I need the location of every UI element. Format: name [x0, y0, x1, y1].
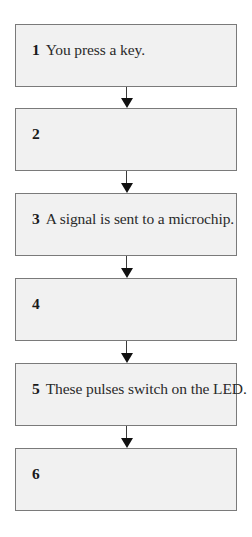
step-number: 2 — [32, 125, 40, 142]
step-box-6: 6 — [15, 448, 237, 511]
step-content: 4 — [32, 294, 46, 314]
step-content: 3A signal is sent to a microchip. — [32, 209, 234, 229]
step-box-1: 1You press a key. — [15, 24, 237, 87]
arrow-down-icon — [121, 183, 133, 193]
step-number: 4 — [32, 295, 40, 312]
step-text: A signal is sent to a microchip. — [46, 210, 234, 227]
step-content: 1You press a key. — [32, 40, 145, 60]
arrow-down-icon — [121, 98, 133, 108]
arrow-down-icon — [121, 353, 133, 363]
step-box-3: 3A signal is sent to a microchip. — [15, 193, 237, 256]
step-text: You press a key. — [46, 41, 145, 58]
step-box-5: 5These pulses switch on the LED. — [15, 363, 237, 426]
step-box-2: 2 — [15, 108, 237, 171]
flowchart: 1You press a key. 2 3A signal is sent to… — [0, 0, 252, 537]
step-content: 5These pulses switch on the LED. — [32, 379, 247, 399]
step-text: These pulses switch on the LED. — [46, 380, 247, 397]
step-number: 5 — [32, 380, 40, 397]
step-content: 2 — [32, 124, 46, 144]
step-box-4: 4 — [15, 278, 237, 341]
step-number: 3 — [32, 210, 40, 227]
arrow-down-icon — [121, 268, 133, 278]
step-number: 6 — [32, 465, 40, 482]
arrow-down-icon — [121, 438, 133, 448]
step-content: 6 — [32, 464, 46, 484]
step-number: 1 — [32, 41, 40, 58]
